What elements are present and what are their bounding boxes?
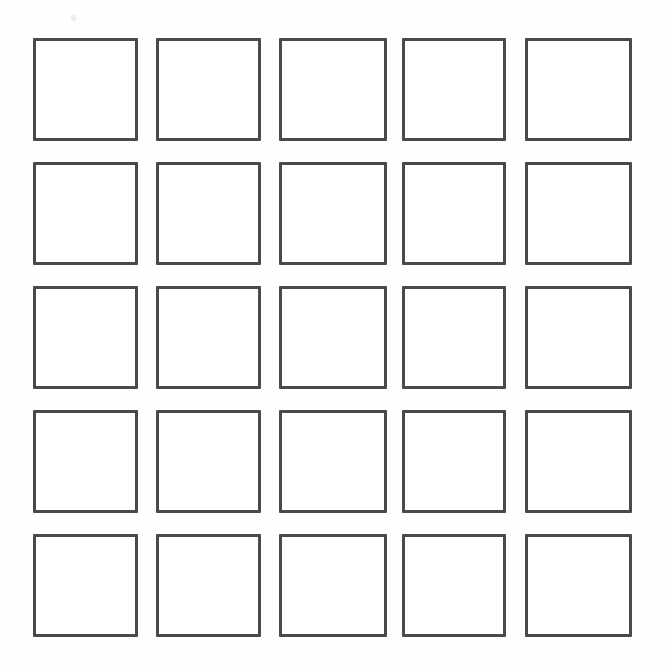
- grid-cell-r4-c3[interactable]: [279, 410, 387, 513]
- grid-cell-r3-c3[interactable]: [279, 286, 387, 389]
- grid-cell-r3-c2[interactable]: [156, 286, 261, 389]
- grid-cell-r4-c1[interactable]: [33, 410, 138, 513]
- grid-cell-r2-c2[interactable]: [156, 162, 261, 265]
- grid-cell-r1-c4[interactable]: [402, 38, 506, 141]
- grid-cell-r4-c2[interactable]: [156, 410, 261, 513]
- grid-cell-r3-c1[interactable]: [33, 286, 138, 389]
- scan-speck: [71, 15, 76, 21]
- grid-cell-r5-c5[interactable]: [525, 534, 632, 637]
- grid-cell-r2-c4[interactable]: [402, 162, 506, 265]
- grid-cell-r5-c1[interactable]: [33, 534, 138, 637]
- grid-cell-r3-c4[interactable]: [402, 286, 506, 389]
- grid-cell-r3-c5[interactable]: [525, 286, 632, 389]
- grid-cell-r1-c3[interactable]: [279, 38, 387, 141]
- square-grid: [33, 38, 633, 637]
- grid-cell-r1-c2[interactable]: [156, 38, 261, 141]
- grid-cell-r5-c4[interactable]: [402, 534, 506, 637]
- grid-sheet: [0, 0, 665, 672]
- grid-cell-r5-c3[interactable]: [279, 534, 387, 637]
- grid-cell-r4-c5[interactable]: [525, 410, 632, 513]
- grid-cell-r2-c1[interactable]: [33, 162, 138, 265]
- grid-cell-r5-c2[interactable]: [156, 534, 261, 637]
- grid-cell-r1-c1[interactable]: [33, 38, 138, 141]
- grid-cell-r2-c5[interactable]: [525, 162, 632, 265]
- grid-cell-r2-c3[interactable]: [279, 162, 387, 265]
- grid-cell-r4-c4[interactable]: [402, 410, 506, 513]
- grid-cell-r1-c5[interactable]: [525, 38, 632, 141]
